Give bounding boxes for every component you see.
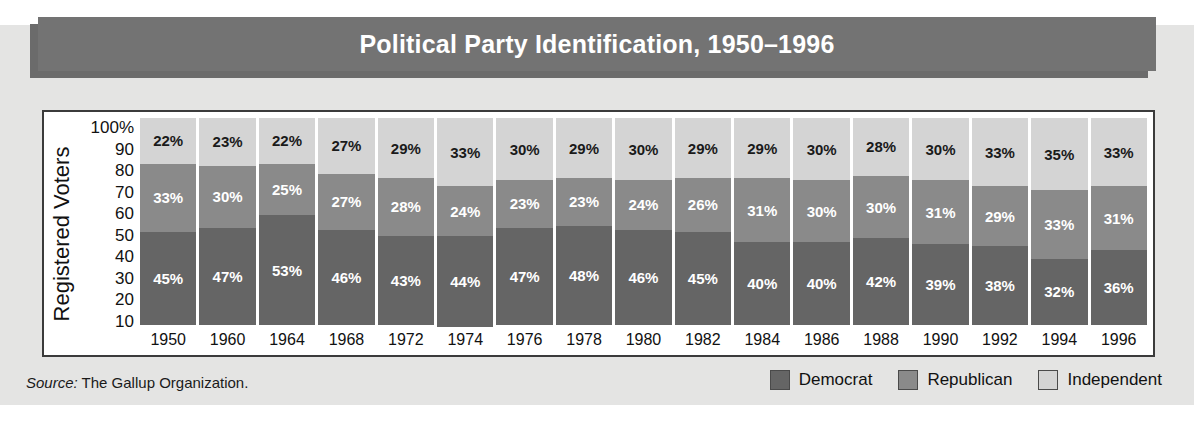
bar-segment-independent[interactable]: 33% xyxy=(972,118,1028,186)
bar-column[interactable]: 30%30%40% xyxy=(793,118,849,325)
x-tick-label: 1996 xyxy=(1091,331,1147,349)
bar-segment-democrat[interactable]: 48% xyxy=(556,226,612,325)
chart-legend: DemocratRepublicanIndependent xyxy=(770,370,1162,390)
bar-column[interactable]: 29%26%45% xyxy=(675,118,731,325)
bar-segment-democrat[interactable]: 44% xyxy=(437,236,493,327)
bar-segment-independent[interactable]: 30% xyxy=(912,118,968,180)
x-tick-label: 1980 xyxy=(615,331,671,349)
bar-segment-democrat[interactable]: 36% xyxy=(1091,250,1147,325)
bar-segment-democrat[interactable]: 38% xyxy=(972,246,1028,325)
bar-segment-republican[interactable]: 25% xyxy=(259,164,315,216)
x-tick-label: 1972 xyxy=(378,331,434,349)
bar-segment-independent[interactable]: 23% xyxy=(199,118,255,166)
bar-segment-independent[interactable]: 29% xyxy=(734,118,790,178)
bar-column[interactable]: 29%28%43% xyxy=(378,118,434,325)
legend-swatch-icon xyxy=(770,370,790,390)
bar-column[interactable]: 23%30%47% xyxy=(199,118,255,325)
bar-segment-democrat[interactable]: 40% xyxy=(734,242,790,325)
bar-column[interactable]: 29%23%48% xyxy=(556,118,612,325)
bar-segment-republican[interactable]: 23% xyxy=(556,178,612,226)
bar-segment-independent[interactable]: 30% xyxy=(496,118,552,180)
bar-segment-democrat[interactable]: 46% xyxy=(318,230,374,325)
bar-segment-independent[interactable]: 22% xyxy=(259,118,315,164)
bar-segment-independent[interactable]: 28% xyxy=(853,118,909,176)
y-axis-title-label: Registered Voters xyxy=(49,146,75,321)
legend-item[interactable]: Independent xyxy=(1038,370,1162,390)
bar-column[interactable]: 33%29%38% xyxy=(972,118,1028,325)
stacked-bars: 22%33%45%23%30%47%22%25%53%27%27%46%29%2… xyxy=(140,118,1147,325)
y-tick-label: 80 xyxy=(80,160,138,182)
x-tick-label: 1950 xyxy=(140,331,196,349)
bar-segment-republican[interactable]: 26% xyxy=(675,178,731,232)
footer: Source: The Gallup Organization. Democra… xyxy=(0,366,1194,406)
bar-segment-republican[interactable]: 31% xyxy=(1091,186,1147,250)
bar-segment-democrat[interactable]: 47% xyxy=(199,228,255,325)
bar-segment-democrat[interactable]: 43% xyxy=(378,236,434,325)
legend-item[interactable]: Democrat xyxy=(770,370,873,390)
y-tick-label: 70 xyxy=(80,182,138,204)
bar-segment-democrat[interactable]: 42% xyxy=(853,238,909,325)
bar-column[interactable]: 28%30%42% xyxy=(853,118,909,325)
y-tick-label: 40 xyxy=(80,246,138,268)
bar-column[interactable]: 33%24%44% xyxy=(437,118,493,325)
bar-segment-democrat[interactable]: 45% xyxy=(675,232,731,325)
bar-segment-republican[interactable]: 27% xyxy=(318,174,374,230)
bar-segment-democrat[interactable]: 53% xyxy=(259,215,315,325)
bar-column[interactable]: 33%31%36% xyxy=(1091,118,1147,325)
legend-swatch-icon xyxy=(1038,370,1058,390)
bar-segment-independent[interactable]: 22% xyxy=(140,118,196,164)
bar-segment-democrat[interactable]: 32% xyxy=(1031,259,1087,325)
bar-column[interactable]: 30%24%46% xyxy=(615,118,671,325)
bar-segment-republican[interactable]: 31% xyxy=(734,178,790,242)
bar-segment-independent[interactable]: 33% xyxy=(1091,118,1147,186)
bar-segment-democrat[interactable]: 40% xyxy=(793,242,849,325)
page-title: Political Party Identification, 1950–199… xyxy=(359,30,834,59)
bar-segment-republican[interactable]: 23% xyxy=(496,180,552,228)
legend-label: Democrat xyxy=(799,370,873,390)
y-tick-label: 60 xyxy=(80,203,138,225)
y-axis-ticks: 100%908070605040302010 xyxy=(80,112,138,355)
bar-segment-independent[interactable]: 29% xyxy=(675,118,731,178)
x-tick-label: 1990 xyxy=(912,331,968,349)
legend-swatch-icon xyxy=(898,370,918,390)
bar-column[interactable]: 30%23%47% xyxy=(496,118,552,325)
x-tick-label: 1986 xyxy=(793,331,849,349)
bar-segment-independent[interactable]: 30% xyxy=(615,118,671,180)
bar-segment-democrat[interactable]: 39% xyxy=(912,244,968,325)
legend-label: Republican xyxy=(927,370,1012,390)
bar-segment-republican[interactable]: 30% xyxy=(793,180,849,242)
bar-segment-republican[interactable]: 29% xyxy=(972,186,1028,246)
plot-area: 22%33%45%23%30%47%22%25%53%27%27%46%29%2… xyxy=(138,112,1153,355)
bar-segment-independent[interactable]: 35% xyxy=(1031,118,1087,190)
bar-segment-republican[interactable]: 28% xyxy=(378,178,434,236)
bar-column[interactable]: 22%25%53% xyxy=(259,118,315,325)
bar-segment-republican[interactable]: 30% xyxy=(853,176,909,238)
bar-column[interactable]: 27%27%46% xyxy=(318,118,374,325)
bar-segment-independent[interactable]: 27% xyxy=(318,118,374,174)
x-tick-label: 1984 xyxy=(734,331,790,349)
source-value: The Gallup Organization. xyxy=(78,374,249,391)
bar-segment-republican[interactable]: 33% xyxy=(140,164,196,232)
bar-segment-republican[interactable]: 33% xyxy=(1031,190,1087,258)
x-tick-label: 1982 xyxy=(675,331,731,349)
bar-column[interactable]: 35%33%32% xyxy=(1031,118,1087,325)
bar-segment-independent[interactable]: 29% xyxy=(556,118,612,178)
bar-segment-republican[interactable]: 30% xyxy=(199,166,255,228)
y-tick-label: 10 xyxy=(80,311,138,333)
bar-segment-independent[interactable]: 30% xyxy=(793,118,849,180)
bar-segment-republican[interactable]: 24% xyxy=(437,186,493,236)
bar-column[interactable]: 22%33%45% xyxy=(140,118,196,325)
bar-segment-democrat[interactable]: 47% xyxy=(496,228,552,325)
bar-segment-independent[interactable]: 33% xyxy=(437,118,493,186)
bar-segment-independent[interactable]: 29% xyxy=(378,118,434,178)
bar-column[interactable]: 29%31%40% xyxy=(734,118,790,325)
legend-item[interactable]: Republican xyxy=(898,370,1012,390)
bar-segment-democrat[interactable]: 45% xyxy=(140,232,196,325)
y-tick-label: 30 xyxy=(80,268,138,290)
bar-segment-republican[interactable]: 24% xyxy=(615,180,671,230)
y-tick-label: 20 xyxy=(80,289,138,311)
bar-segment-democrat[interactable]: 46% xyxy=(615,230,671,325)
x-tick-label: 1960 xyxy=(199,331,255,349)
bar-column[interactable]: 30%31%39% xyxy=(912,118,968,325)
bar-segment-republican[interactable]: 31% xyxy=(912,180,968,244)
